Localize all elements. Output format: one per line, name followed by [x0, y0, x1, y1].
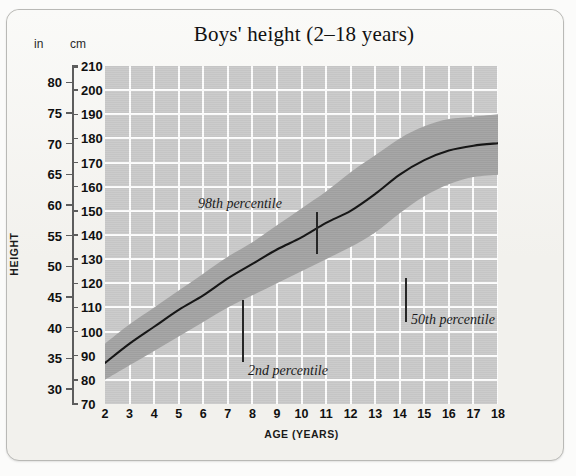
inch-tick-label: 50: [30, 260, 62, 273]
inch-tick-label: 30: [30, 383, 62, 396]
leader-line-50th-percentile: [405, 278, 407, 322]
cm-tick-label: 120: [81, 277, 103, 290]
inch-tick-label: 40: [30, 321, 62, 334]
cm-tick-label: 170: [81, 156, 103, 169]
cm-tick-label: 130: [81, 253, 103, 266]
y-axis-title: HEIGHT: [8, 224, 20, 284]
inch-tick: [66, 388, 72, 390]
inch-tick-label: 75: [30, 107, 62, 120]
centimetres-unit-header: cm: [70, 37, 86, 51]
median-curve: [105, 66, 498, 404]
growth-chart-figure: Boys' height (2–18 years) in cm HEIGHT 2…: [0, 0, 576, 476]
cm-tick-label: 210: [81, 60, 103, 73]
cm-tick-label: 180: [81, 132, 103, 145]
inch-tick: [66, 204, 72, 206]
age-tick-label: 18: [484, 407, 512, 421]
leader-line-2nd-percentile: [242, 300, 244, 362]
inch-tick: [66, 174, 72, 176]
inch-tick: [66, 296, 72, 298]
cm-tick-label: 100: [81, 325, 103, 338]
annotation-98th-percentile: 98th percentile: [198, 196, 282, 212]
inch-tick-label: 65: [30, 168, 62, 181]
inch-tick: [66, 235, 72, 237]
x-axis-title: AGE (YEARS): [105, 428, 498, 440]
inch-tick: [66, 143, 72, 145]
plot-area: [105, 66, 498, 404]
inch-tick-label: 70: [30, 137, 62, 150]
annotation-50th-percentile: 50th percentile: [411, 312, 495, 328]
annotation-2nd-percentile: 2nd percentile: [248, 363, 328, 379]
inch-tick-label: 45: [30, 291, 62, 304]
inch-tick: [66, 266, 72, 268]
cm-tick-label: 140: [81, 229, 103, 242]
cm-tick: [72, 162, 78, 164]
cm-tick: [72, 65, 78, 67]
cm-tick-label: 160: [81, 180, 103, 193]
cm-tick: [72, 114, 78, 116]
cm-tick-label: 80: [81, 373, 95, 386]
inch-tick-label: 35: [30, 352, 62, 365]
inch-tick: [66, 358, 72, 360]
cm-tick-label: 190: [81, 108, 103, 121]
cm-tick: [72, 210, 78, 212]
inches-unit-header: in: [34, 37, 43, 51]
inch-tick-label: 55: [30, 229, 62, 242]
inch-tick-label: 60: [30, 199, 62, 212]
inch-tick: [66, 82, 72, 84]
leader-line-98th-percentile: [316, 212, 318, 254]
chart-title: Boys' height (2–18 years): [104, 22, 504, 47]
cm-tick-label: 90: [81, 349, 95, 362]
cm-tick: [72, 403, 78, 405]
inch-tick: [66, 112, 72, 114]
cm-tick: [72, 258, 78, 260]
cm-tick: [72, 331, 78, 333]
cm-tick: [72, 307, 78, 309]
cm-tick: [72, 379, 78, 381]
inch-tick-label: 80: [30, 76, 62, 89]
cm-tick: [72, 283, 78, 285]
cm-tick-label: 150: [81, 204, 103, 217]
cm-tick: [72, 355, 78, 357]
cm-tick: [72, 186, 78, 188]
cm-tick: [72, 89, 78, 91]
inch-tick: [66, 327, 72, 329]
cm-tick: [72, 234, 78, 236]
cm-tick-label: 110: [81, 301, 102, 314]
cm-tick: [72, 138, 78, 140]
cm-tick-label: 200: [81, 84, 103, 97]
